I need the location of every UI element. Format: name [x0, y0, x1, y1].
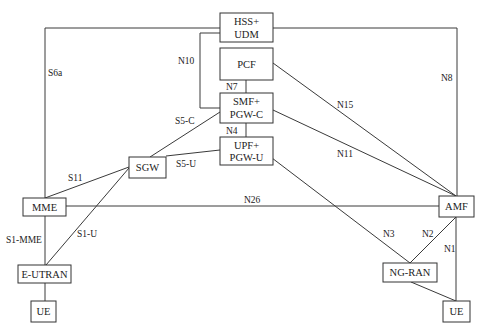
label-n2: N2	[422, 229, 434, 239]
node-eutran: E-UTRAN	[18, 265, 71, 283]
link-n8	[273, 28, 457, 196]
link-ngran-ue	[411, 282, 456, 301]
node-ue-right-label: UE	[450, 306, 464, 317]
label-n8: N8	[441, 73, 453, 83]
node-upf-line2: PGW-U	[230, 152, 264, 163]
node-ue-right: UE	[443, 301, 470, 322]
node-smf-line1: SMF+	[233, 96, 260, 107]
label-n15: N15	[337, 100, 354, 110]
link-n3	[272, 158, 410, 263]
link-n10	[200, 33, 220, 108]
node-upf-line1: UPF+	[234, 140, 259, 151]
label-s1mme: S1-MME	[6, 235, 42, 245]
label-n11: N11	[337, 149, 353, 159]
node-mme-label: MME	[32, 202, 57, 213]
label-n4: N4	[226, 126, 238, 136]
node-smf-pgwc: SMF+ PGW-C	[220, 93, 273, 123]
node-upf-pgwu: UPF+ PGW-U	[220, 137, 273, 165]
node-amf: AMF	[439, 196, 474, 217]
label-n10: N10	[178, 56, 195, 66]
node-ue-left: UE	[31, 301, 56, 322]
link-n2	[410, 217, 456, 263]
node-pcf-label: PCF	[237, 59, 256, 70]
node-sgw-label: SGW	[136, 162, 159, 173]
label-s1u: S1-U	[77, 229, 97, 239]
node-ngran: NG-RAN	[383, 263, 437, 282]
label-n3: N3	[383, 229, 395, 239]
node-ue-left-label: UE	[37, 306, 51, 317]
node-amf-label: AMF	[445, 201, 468, 212]
link-s5u	[166, 150, 220, 156]
label-s5u: S5-U	[176, 159, 196, 169]
node-hss-udm-line1: HSS+	[234, 16, 259, 27]
label-n26: N26	[244, 195, 261, 205]
label-n1: N1	[444, 244, 456, 254]
node-mme: MME	[23, 198, 66, 216]
label-s6a: S6a	[48, 68, 63, 78]
node-ngran-label: NG-RAN	[390, 267, 431, 278]
label-s5c: S5-C	[175, 116, 195, 126]
node-sgw: SGW	[129, 157, 166, 178]
label-n7: N7	[226, 82, 238, 92]
node-hss-udm-line2: UDM	[234, 29, 259, 40]
network-architecture-diagram: HSS+ UDM PCF SMF+ PGW-C UPF+ PGW-U SGW M…	[0, 0, 480, 330]
node-hss-udm: HSS+ UDM	[220, 13, 273, 42]
node-smf-line2: PGW-C	[230, 109, 263, 120]
link-n11	[273, 110, 456, 196]
node-eutran-label: E-UTRAN	[21, 269, 67, 280]
link-n15	[273, 63, 456, 196]
label-s11: S11	[68, 173, 83, 183]
node-pcf: PCF	[220, 48, 273, 80]
